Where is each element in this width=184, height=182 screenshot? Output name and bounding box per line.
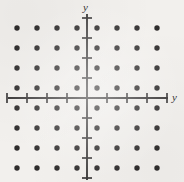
plot-canvas [0, 0, 184, 182]
lattice-dot [154, 65, 159, 70]
lattice-dot [94, 45, 99, 50]
lattice-dot [134, 145, 139, 150]
lattice-dot [54, 65, 59, 70]
lattice-dot [154, 45, 159, 50]
lattice-dot [114, 85, 119, 90]
lattice-dot [94, 165, 99, 170]
axes-group [8, 14, 168, 180]
lattice-dot [134, 165, 139, 170]
lattice-dot [74, 125, 79, 130]
lattice-dot [114, 25, 119, 30]
lattice-dot [14, 145, 19, 150]
lattice-dot [34, 45, 39, 50]
lattice-dot [34, 165, 39, 170]
lattice-dot [94, 85, 99, 90]
lattice-dot [54, 145, 59, 150]
lattice-dot [114, 45, 119, 50]
lattice-dot [134, 125, 139, 130]
lattice-dot [154, 165, 159, 170]
lattice-dot [74, 65, 79, 70]
lattice-dot [134, 65, 139, 70]
lattice-dot [94, 125, 99, 130]
lattice-dot [94, 105, 99, 110]
lattice-dot [74, 105, 79, 110]
y-axis-label: y [83, 2, 88, 13]
lattice-dot [154, 145, 159, 150]
lattice-dot [54, 45, 59, 50]
lattice-dot [34, 125, 39, 130]
lattice-dot [14, 165, 19, 170]
lattice-dot [74, 45, 79, 50]
lattice-dot [14, 85, 19, 90]
lattice-dot [134, 85, 139, 90]
lattice-dot [134, 45, 139, 50]
lattice-dot [154, 85, 159, 90]
lattice-dot [54, 125, 59, 130]
lattice-dot [14, 125, 19, 130]
lattice-dot [54, 105, 59, 110]
lattice-dot [154, 105, 159, 110]
lattice-dot [54, 165, 59, 170]
lattice-dot [74, 165, 79, 170]
lattice-dot [34, 85, 39, 90]
lattice-dot [74, 145, 79, 150]
lattice-dot [114, 145, 119, 150]
lattice-dot [94, 145, 99, 150]
lattice-dot [14, 65, 19, 70]
lattice-dot [74, 25, 79, 30]
lattice-dot [34, 65, 39, 70]
lattice-dot [54, 25, 59, 30]
lattice-dot [114, 105, 119, 110]
lattice-plot-figure: y y [0, 0, 184, 182]
lattice-dot [54, 85, 59, 90]
lattice-dot [94, 65, 99, 70]
lattice-dot [154, 125, 159, 130]
lattice-dot [34, 105, 39, 110]
lattice-dot [14, 105, 19, 110]
lattice-dot [134, 105, 139, 110]
lattice-dot [134, 25, 139, 30]
lattice-dot [34, 25, 39, 30]
lattice-dot [114, 165, 119, 170]
lattice-dot [154, 25, 159, 30]
lattice-dot [14, 25, 19, 30]
lattice-dot [94, 25, 99, 30]
lattice-dot [14, 45, 19, 50]
lattice-dot [114, 125, 119, 130]
lattice-dot [114, 65, 119, 70]
x-axis-label: y [172, 92, 177, 103]
lattice-dot [74, 85, 79, 90]
lattice-dot [34, 145, 39, 150]
